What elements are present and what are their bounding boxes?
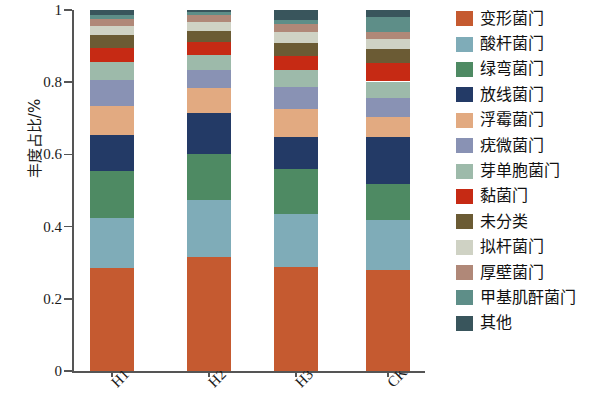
bar-segment [366, 98, 410, 117]
bar-segment [187, 10, 231, 12]
legend-swatch-icon [456, 214, 473, 229]
bar-segment [90, 106, 134, 135]
y-tick-mark [64, 9, 72, 11]
legend-item[interactable]: 放线菌门 [456, 82, 606, 107]
bar-segment [187, 200, 231, 258]
legend-item[interactable]: 绿弯菌门 [456, 57, 606, 82]
legend-item[interactable]: 厚壁菌门 [456, 260, 606, 285]
legend-label: 绿弯菌门 [480, 61, 544, 77]
bar-h2 [187, 10, 231, 371]
legend-item[interactable]: 其他 [456, 311, 606, 336]
legend-swatch-icon [456, 11, 473, 26]
bar-segment [274, 32, 318, 42]
legend-label: 浮霉菌门 [480, 112, 544, 128]
legend-item[interactable]: 芽单胞菌门 [456, 158, 606, 183]
legend-swatch-icon [456, 87, 473, 102]
y-tick-mark [64, 370, 72, 372]
legend-swatch-icon [456, 113, 473, 128]
legend-label: 厚壁菌门 [480, 265, 544, 281]
bar-segment [366, 32, 410, 39]
bar-segment [366, 63, 410, 82]
bar-segment [366, 270, 410, 371]
bar-segment [90, 48, 134, 62]
bar-segment [366, 39, 410, 50]
y-tick-mark [64, 226, 72, 228]
legend-item[interactable]: 拟杆菌门 [456, 235, 606, 260]
bar-segment [90, 218, 134, 269]
legend-item[interactable]: 疣微菌门 [456, 133, 606, 158]
bar-segment [274, 43, 318, 56]
y-tick-label: 0 [6, 364, 62, 379]
bar-segment [366, 184, 410, 220]
bar-segment [187, 42, 231, 55]
bar-h1 [90, 10, 134, 371]
y-axis-title: 丰度占比/% [23, 84, 44, 194]
bar-segment [187, 113, 231, 155]
legend-item[interactable]: 甲基肌酐菌门 [456, 285, 606, 310]
bar-segment [274, 70, 318, 87]
legend-label: 未分类 [480, 214, 528, 230]
legend-swatch-icon [456, 164, 473, 179]
legend-label: 变形菌门 [480, 11, 544, 27]
stacked-bar-chart: 00.20.40.60.81 丰度占比/% H1H2H3CK 变形菌门酸杆菌门绿… [0, 0, 608, 408]
bar-segment [274, 24, 318, 32]
bar-h3 [274, 10, 318, 371]
y-tick-label: 0.4 [6, 219, 62, 234]
bar-segment [274, 137, 318, 169]
legend-swatch-icon [456, 37, 473, 52]
bar-segment [274, 10, 318, 20]
legend-item[interactable]: 黏菌门 [456, 184, 606, 209]
bar-segment [90, 62, 134, 80]
bar-segment [187, 12, 231, 16]
legend-swatch-icon [456, 189, 473, 204]
legend-label: 放线菌门 [480, 87, 544, 103]
legend-label: 黏菌门 [480, 188, 528, 204]
legend-label: 甲基肌酐菌门 [480, 290, 576, 306]
legend-swatch-icon [456, 316, 473, 331]
bar-segment [366, 10, 410, 17]
y-tick-mark [64, 298, 72, 300]
bar-segment [274, 214, 318, 267]
bar-segment [274, 87, 318, 109]
y-tick-mark [64, 154, 72, 156]
bar-segment [90, 80, 134, 105]
legend-label: 酸杆菌门 [480, 36, 544, 52]
legend-swatch-icon [456, 62, 473, 77]
legend-item[interactable]: 酸杆菌门 [456, 31, 606, 56]
bar-segment [366, 82, 410, 99]
bar-segment [366, 137, 410, 184]
bar-ck [366, 10, 410, 371]
legend-swatch-icon [456, 265, 473, 280]
legend-label: 芽单胞菌门 [480, 163, 560, 179]
legend-swatch-icon [456, 240, 473, 255]
legend-item[interactable]: 浮霉菌门 [456, 108, 606, 133]
y-axis-line [72, 10, 74, 372]
bar-segment [366, 49, 410, 62]
legend-label: 其他 [480, 315, 512, 331]
bar-segment [366, 17, 410, 31]
y-tick-label: 1 [6, 3, 62, 18]
bar-segment [366, 220, 410, 269]
legend-swatch-icon [456, 290, 473, 305]
legend-label: 拟杆菌门 [480, 239, 544, 255]
bar-segment [274, 20, 318, 24]
bar-segment [90, 171, 134, 218]
legend-swatch-icon [456, 138, 473, 153]
bar-segment [90, 35, 134, 48]
bar-segment [90, 19, 134, 26]
bar-segment [187, 257, 231, 371]
y-tick-mark [64, 81, 72, 83]
bar-segment [187, 70, 231, 88]
bar-segment [90, 15, 134, 19]
bar-segment [187, 88, 231, 113]
bar-segment [187, 15, 231, 21]
bar-segment [274, 169, 318, 214]
legend: 变形菌门酸杆菌门绿弯菌门放线菌门浮霉菌门疣微菌门芽单胞菌门黏菌门未分类拟杆菌门厚… [456, 6, 606, 336]
bar-segment [274, 267, 318, 371]
legend-label: 疣微菌门 [480, 138, 544, 154]
legend-item[interactable]: 变形菌门 [456, 6, 606, 31]
bar-segment [187, 22, 231, 31]
y-tick-label: 0.2 [6, 291, 62, 306]
legend-item[interactable]: 未分类 [456, 209, 606, 234]
bar-segment [187, 31, 231, 42]
